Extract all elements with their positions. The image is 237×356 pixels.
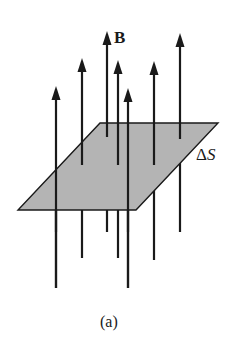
arrowhead-icon xyxy=(176,33,185,47)
arrowhead-icon xyxy=(150,61,159,75)
surface-variable: S xyxy=(207,145,216,164)
surface-element-label: ΔS xyxy=(196,145,215,165)
arrowhead-icon xyxy=(78,58,87,72)
magnetic-flux-diagram xyxy=(0,0,237,356)
figure-caption: (a) xyxy=(100,313,118,331)
delta-symbol: Δ xyxy=(196,145,207,164)
arrowhead-icon xyxy=(124,88,133,102)
arrowhead-icon xyxy=(114,60,123,74)
arrowhead-icon xyxy=(103,31,112,45)
field-vector-label: B xyxy=(114,28,125,48)
arrowhead-icon xyxy=(52,86,61,100)
